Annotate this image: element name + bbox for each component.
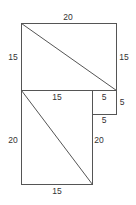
- lower-rect-left-label: 20: [8, 135, 18, 145]
- square-bottom-label: 5: [102, 115, 107, 125]
- diagram-canvas: 20 15 15 15 20 20 15 5 5 5: [0, 0, 136, 205]
- top-rect-top-label: 20: [63, 12, 73, 22]
- lower-rect-top-label: 15: [52, 92, 62, 102]
- lower-rect-right-label: 20: [94, 135, 104, 145]
- top-rect-left-label: 15: [8, 52, 18, 62]
- lower-rect-bottom-label: 15: [52, 186, 62, 196]
- top-rect-right-label: 15: [119, 52, 129, 62]
- top-rectangle-diagonal: [22, 24, 117, 91]
- lower-rectangle-diagonal: [22, 91, 93, 185]
- square-right-label: 5: [120, 97, 125, 107]
- square-top-label: 5: [102, 92, 107, 102]
